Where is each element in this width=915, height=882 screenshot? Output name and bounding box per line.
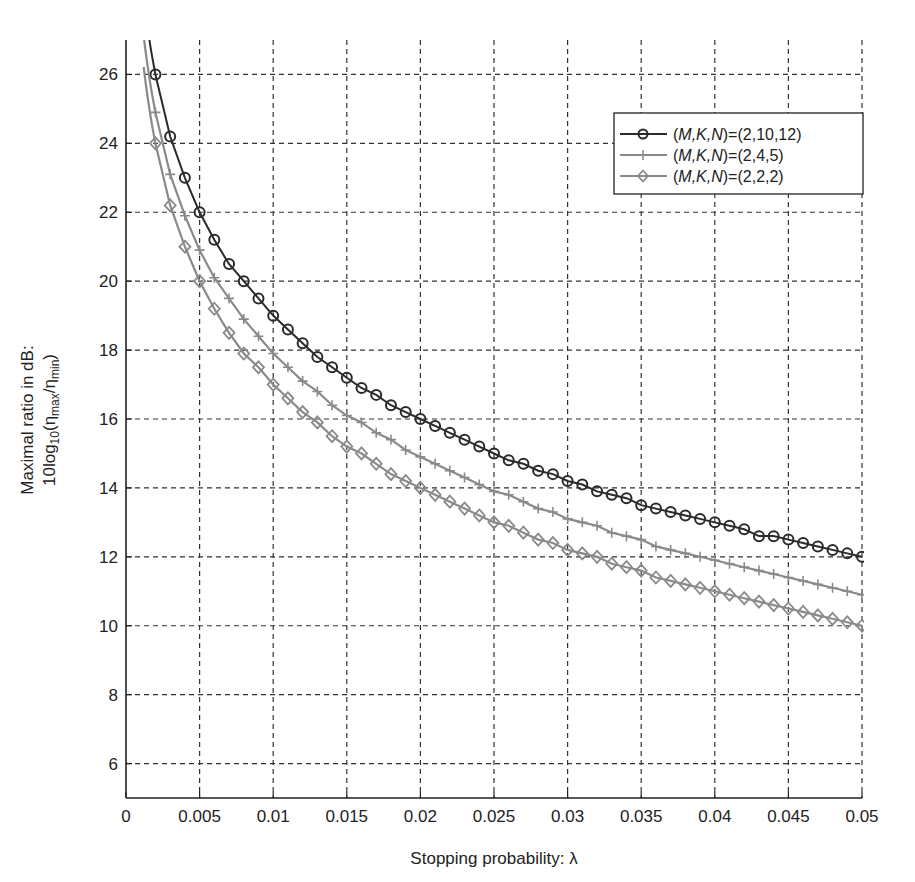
y-tick-label: 14 (99, 479, 118, 498)
plus-marker-icon (165, 169, 175, 179)
y-tick-label: 26 (99, 65, 118, 84)
plus-marker-icon (842, 586, 852, 596)
plus-marker-icon (474, 479, 484, 489)
plus-marker-icon (754, 566, 764, 576)
x-tick-label: 0.005 (178, 807, 221, 826)
x-tick-label: 0.04 (698, 807, 731, 826)
y-tick-label: 8 (109, 686, 118, 705)
plus-marker-icon (548, 507, 558, 517)
y-tick-label: 22 (99, 203, 118, 222)
plus-marker-icon (592, 521, 602, 531)
x-tick-label: 0.02 (404, 807, 437, 826)
plus-marker-icon (563, 514, 573, 524)
plus-marker-icon (150, 107, 160, 117)
plus-marker-icon (195, 245, 205, 255)
x-tick-label: 0.015 (326, 807, 369, 826)
plus-marker-icon (695, 552, 705, 562)
y-tick-label: 6 (109, 755, 118, 774)
plus-marker-icon (739, 562, 749, 572)
x-axis-ticks: 00.0050.010.0150.020.0250.030.0350.040.0… (121, 792, 878, 826)
plus-marker-icon (666, 545, 676, 555)
plus-marker-icon (725, 559, 735, 569)
plus-marker-icon (783, 572, 793, 582)
y-axis-title-line2: 10log10(ηmax/ηmin) (40, 354, 62, 486)
legend: (M,K,N)=(2,10,12) (M,K,N)=(2,4,5) (M,K,N… (614, 113, 863, 194)
y-tick-label: 24 (99, 134, 118, 153)
plus-marker-icon (857, 590, 867, 600)
y-tick-label: 20 (99, 272, 118, 291)
plus-marker-icon (518, 497, 528, 507)
series-line (144, 0, 862, 557)
y-tick-label: 12 (99, 548, 118, 567)
x-axis-title: Stopping probability: λ (410, 849, 578, 868)
plus-marker-icon (460, 473, 470, 483)
plus-marker-icon (504, 490, 514, 500)
x-tick-label: 0.01 (257, 807, 290, 826)
plus-marker-icon (621, 531, 631, 541)
y-axis-ticks: 68101214161820222426 (99, 65, 132, 773)
x-tick-label: 0.045 (767, 807, 810, 826)
x-tick-label: 0.05 (845, 807, 878, 826)
y-tick-label: 16 (99, 410, 118, 429)
legend-label: (M,K,N)=(2,10,12) (673, 126, 802, 143)
plus-marker-icon (415, 452, 425, 462)
plus-marker-icon (607, 528, 617, 538)
plus-marker-icon (445, 466, 455, 476)
plus-marker-icon (533, 504, 543, 514)
plus-marker-icon (769, 569, 779, 579)
plus-marker-icon (430, 459, 440, 469)
y-tick-label: 10 (99, 617, 118, 636)
line-chart: 00.0050.010.0150.020.0250.030.0350.040.0… (0, 0, 915, 882)
y-axis-title-line1: Maximal ratio in dB: (18, 345, 37, 494)
plus-marker-icon (577, 517, 587, 527)
x-tick-label: 0 (121, 807, 130, 826)
x-tick-label: 0.025 (473, 807, 516, 826)
data-series (144, 0, 868, 632)
plus-marker-icon (651, 541, 661, 551)
y-tick-label: 18 (99, 341, 118, 360)
x-tick-label: 0.03 (551, 807, 584, 826)
plus-marker-icon (798, 576, 808, 586)
plus-marker-icon (636, 535, 646, 545)
y-axis-title: Maximal ratio in dB: 10log10(ηmax/ηmin) (18, 345, 62, 494)
legend-label: (M,K,N)=(2,4,5) (673, 147, 784, 164)
plus-marker-icon (828, 583, 838, 593)
legend-label: (M,K,N)=(2,2,2) (673, 168, 784, 185)
plus-marker-icon (813, 579, 823, 589)
x-tick-label: 0.035 (620, 807, 663, 826)
